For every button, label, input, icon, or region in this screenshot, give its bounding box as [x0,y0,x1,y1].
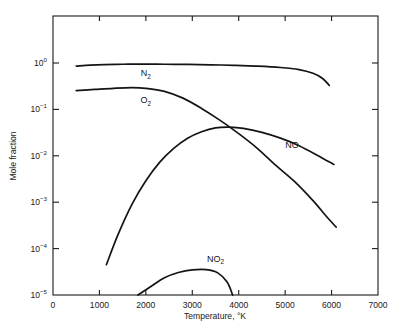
y-tick-label--2: 10−2 [30,149,47,161]
x-axis-ticks-bottom [99,290,331,295]
x-tick-label-0: 0 [51,300,56,310]
mole-fraction-vs-temperature-chart: 01000200030004000500060007000 10−510−410… [0,0,405,333]
x-axis-tick-labels: 01000200030004000500060007000 [51,300,388,310]
x-axis-title: Temperature, °K [184,311,246,321]
chart-container: 01000200030004000500060007000 10−510−410… [0,0,405,333]
curve-O2 [76,88,336,228]
series-label-NO: NO [285,140,299,150]
y-tick-label--4: 10−4 [30,242,47,254]
x-axis-ticks-top [99,16,331,21]
y-axis-title: Mole fraction [8,131,18,180]
series-label-NO2: NO2 [207,254,225,266]
x-tick-label-6000: 6000 [322,300,341,310]
curve-N2 [76,64,329,85]
curve-NO [106,127,334,265]
y-tick-label--3: 10−3 [30,195,47,207]
y-axis-ticks-right [372,63,378,249]
x-tick-label-4000: 4000 [229,300,248,310]
curve-NO2 [138,269,233,295]
x-tick-label-3000: 3000 [183,300,202,310]
x-tick-label-5000: 5000 [276,300,295,310]
series-inline-labels: N2O2NONO2 [141,68,299,265]
y-tick-label-0: 100 [34,56,48,68]
y-tick-label--5: 10−5 [30,288,47,300]
series-label-N2: N2 [141,68,152,80]
x-tick-label-2000: 2000 [136,300,155,310]
y-tick-label--1: 10−1 [30,102,47,114]
x-tick-label-7000: 7000 [368,300,387,310]
series-label-O2: O2 [141,95,152,107]
x-tick-label-1000: 1000 [90,300,109,310]
y-axis-ticks-left [53,63,59,249]
y-axis-tick-labels: 10−510−410−310−210−1100 [30,56,47,300]
